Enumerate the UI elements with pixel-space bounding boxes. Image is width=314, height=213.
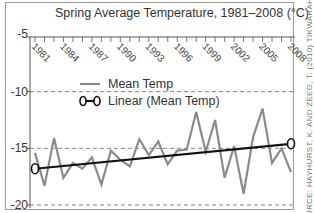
trend-end-marker-icon [288, 139, 295, 149]
trend-start-marker-icon [32, 164, 39, 174]
x-tick-label: 1981 [30, 41, 54, 65]
x-tick-label: 1987 [86, 41, 110, 65]
legend-linear-marker-icon [94, 97, 100, 106]
legend-linear-marker-icon [80, 97, 86, 106]
x-tick-label: 2008 [286, 41, 310, 65]
x-tick-label: 1999 [200, 41, 224, 65]
x-tick-label: 1993 [143, 41, 167, 65]
legend-linear-label: Linear (Mean Temp) [108, 94, 220, 108]
x-tick-label: 1984 [58, 41, 82, 65]
legend-mean-temp-label: Mean Temp [108, 77, 173, 91]
x-tick-label: 2002 [229, 41, 253, 65]
linear-trend-line [35, 144, 291, 169]
x-tick-label: 1996 [172, 41, 196, 65]
x-tick-label: 2005 [257, 41, 281, 65]
mean-temp-line [35, 109, 291, 194]
plot-area: 1981198419871990199319961999200220052008… [0, 0, 314, 213]
x-tick-label: 1990 [115, 41, 139, 65]
